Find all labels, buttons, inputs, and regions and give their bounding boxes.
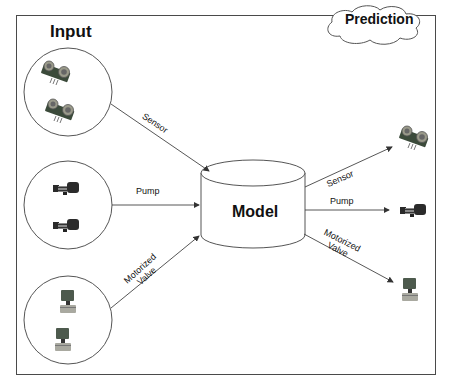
input-title: Input [50,22,92,42]
label-pump-out: Pump [330,196,354,206]
output-pump-icon [400,204,426,217]
arrow-sensor-in [111,104,209,171]
input-sensor-node [24,48,112,136]
label-pump-in: Pump [136,186,160,196]
diagram-canvas [0,0,450,388]
output-valve-icon [402,278,418,301]
arrow-sensor-out [305,147,392,187]
output-sensor-icon [399,126,429,150]
model-label: Model [232,203,278,221]
prediction-title: Prediction [345,11,413,27]
input-pump-node [24,161,112,249]
input-valve-node [24,276,112,364]
